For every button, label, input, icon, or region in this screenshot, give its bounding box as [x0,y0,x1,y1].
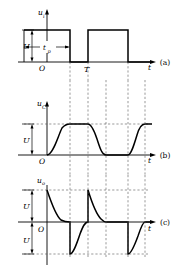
panel-a-amplitude-arrow-down [31,58,34,63]
panel-a-origin-label: O [39,64,45,73]
panel-b-origin-label: O [39,157,45,166]
panel-b: u C t O U (b) [18,80,170,175]
panel-c-amplitude-pos-arrow-down [31,218,34,223]
panel-c: u o t O U U (c) [18,175,170,265]
panel-c-amplitude-pos-label: U [23,202,30,211]
panel-b-amplitude-arrow-up [31,124,34,129]
panel-a-tag: (a) [160,58,170,67]
panel-a: u i t O U t p T (a) [18,8,170,80]
panel-c-amplitude-neg-label: U [23,236,30,245]
panel-b-waveform [47,124,152,155]
panel-a-x-label: t [148,63,152,72]
panel-a-y-arrow [45,9,49,15]
panel-c-origin-label: O [38,225,44,234]
panel-c-y-sublabel: o [42,180,45,186]
panel-b-tag: (b) [160,151,171,160]
panel-b-amplitude-label: U [23,136,30,145]
panel-a-width-label: t [43,44,46,52]
panel-c-amplitude-neg-arrow-down [31,250,34,255]
panel-a-period-label: T [84,65,90,74]
panel-a-y-sublabel: i [43,13,45,19]
panel-c-amplitude-neg-arrow-up [31,222,34,227]
panel-c-tag: (c) [160,218,170,227]
panel-b-amplitude-arrow-down [31,151,34,156]
panel-c-x-label: t [148,224,152,233]
panel-a-amplitude-label: U [23,42,30,51]
panel-c-amplitude-pos-arrow-up [31,190,34,195]
panel-b-y-sublabel: C [42,104,46,110]
panel-b-x-label: t [148,156,152,165]
waveform-figure: u i t O U t p T (a) u C t O U (b) [0,0,185,271]
